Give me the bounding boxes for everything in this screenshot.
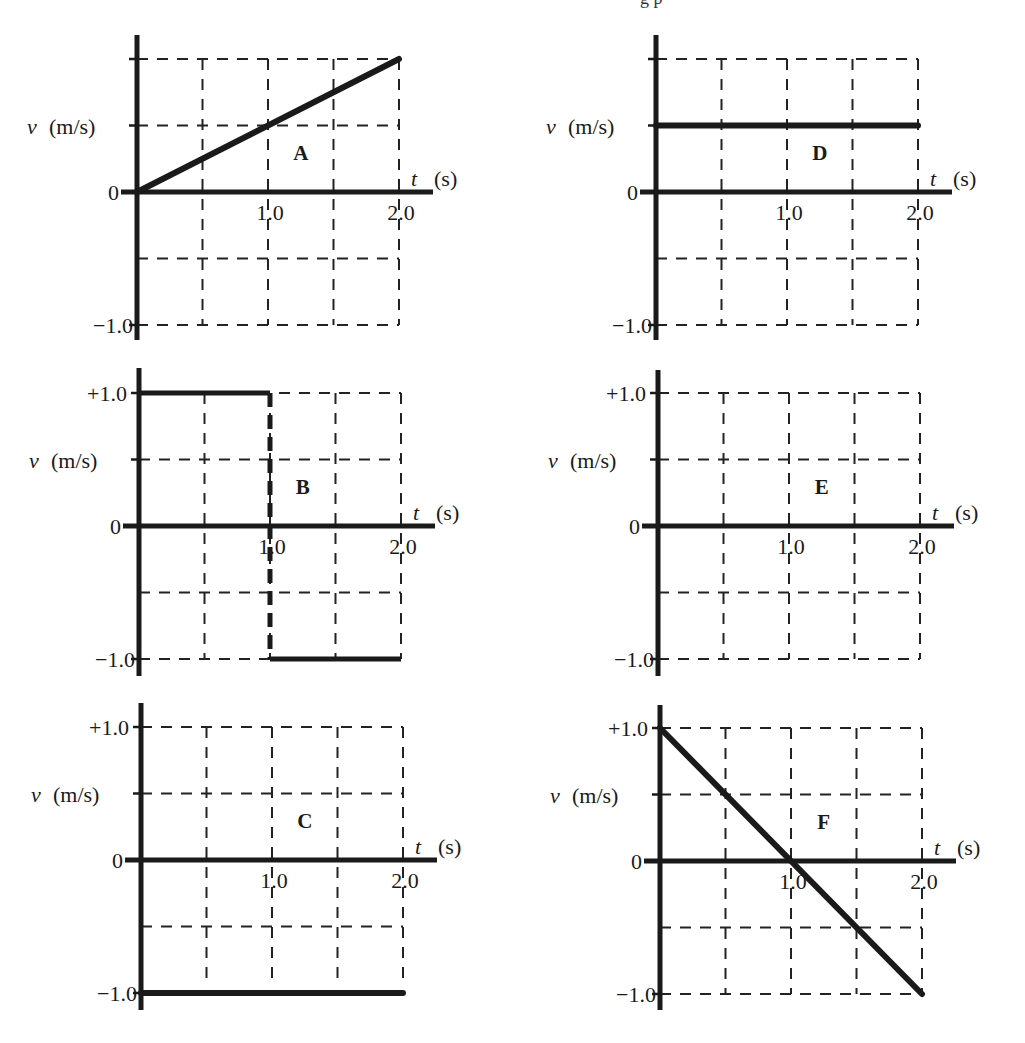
v-axis-label: v [550, 783, 560, 808]
panel-label-b: B [296, 475, 310, 499]
t-unit-label: (s) [436, 500, 459, 525]
x-tick-2: 2.0 [910, 869, 938, 894]
v-axis-label: v [31, 782, 41, 807]
y-tick-0: 0 [112, 848, 123, 873]
x-tick-2: 2.0 [387, 200, 415, 225]
panel-label-c: C [297, 809, 312, 833]
v-axis-label: v [548, 448, 558, 473]
t-axis-label: t [930, 166, 937, 191]
t-axis-label: t [411, 166, 418, 191]
y-tick-0: 0 [110, 514, 121, 539]
v-unit-label: (m/s) [53, 782, 99, 807]
y-tick-minus-1: −1.0 [97, 981, 137, 1006]
v-axis-label: v [546, 114, 556, 139]
x-tick-1: 1.0 [260, 868, 288, 893]
v-unit-label: (m/s) [568, 114, 614, 139]
v-unit-label: (m/s) [51, 448, 97, 473]
t-axis-label: t [932, 500, 939, 525]
x-tick-2: 2.0 [906, 200, 934, 225]
panel-label-a: A [293, 141, 309, 165]
panel-label-d: D [812, 141, 827, 165]
graph-panel-a: 0−1.01.02.0v(m/s)t(s)A [27, 35, 457, 340]
y-tick-0: 0 [631, 849, 642, 874]
y-tick-minus-1: −1.0 [93, 313, 133, 338]
t-unit-label: (s) [955, 500, 978, 525]
t-axis-label: t [413, 500, 420, 525]
graph-panel-b: +1.00−1.01.02.0v(m/s)t(s)B [29, 368, 459, 676]
velocity-time-graphs: 0−1.01.02.0v(m/s)t(s)A+1.00−1.01.02.0v(m… [0, 0, 1025, 1043]
x-tick-1: 1.0 [256, 200, 284, 225]
y-tick-0: 0 [627, 180, 638, 205]
graph-panel-f: +1.00−1.01.02.0v(m/s)t(s)F [550, 705, 980, 1010]
y-tick-minus-1: −1.0 [95, 647, 135, 672]
y-tick-plus-1: +1.0 [606, 381, 646, 406]
x-tick-2: 2.0 [391, 868, 419, 893]
y-tick-minus-1: −1.0 [614, 647, 654, 672]
y-tick-plus-1: +1.0 [89, 715, 129, 740]
graph-panel-d: 0−1.01.02.0v(m/s)t(s)D [546, 35, 976, 340]
t-unit-label: (s) [953, 166, 976, 191]
y-tick-plus-1: +1.0 [608, 716, 648, 741]
v-unit-label: (m/s) [49, 114, 95, 139]
panel-label-f: F [817, 810, 830, 834]
v-unit-label: (m/s) [572, 783, 618, 808]
graph-panel-e: +1.00−1.01.02.0v(m/s)t(s)E [548, 370, 978, 676]
y-tick-minus-1: −1.0 [616, 982, 656, 1007]
v-axis-label: v [29, 448, 39, 473]
t-unit-label: (s) [434, 166, 457, 191]
v-axis-label: v [27, 114, 37, 139]
t-unit-label: (s) [957, 835, 980, 860]
y-tick-plus-1: +1.0 [87, 381, 127, 406]
y-tick-minus-1: −1.0 [612, 313, 652, 338]
t-axis-label: t [415, 834, 422, 859]
t-axis-label: t [934, 835, 941, 860]
y-tick-0: 0 [108, 180, 119, 205]
graph-panel-c: +1.00−1.01.02.0v(m/s)t(s)C [31, 703, 461, 1010]
x-tick-1: 1.0 [775, 200, 803, 225]
y-tick-0: 0 [629, 514, 640, 539]
x-tick-1: 1.0 [777, 534, 805, 559]
v-unit-label: (m/s) [570, 448, 616, 473]
x-tick-2: 2.0 [908, 534, 936, 559]
t-unit-label: (s) [438, 834, 461, 859]
panel-label-e: E [815, 475, 829, 499]
x-tick-2: 2.0 [389, 534, 417, 559]
